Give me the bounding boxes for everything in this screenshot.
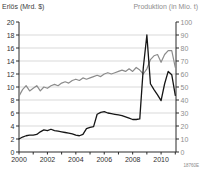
right-axis-tick-label: 80	[181, 45, 189, 52]
right-axis-tick-label: 60	[181, 71, 189, 78]
right-axis-tick-label: 70	[181, 58, 189, 65]
x-axis-tick-label: 2004	[68, 156, 84, 163]
left-axis-tick-label: 10	[7, 84, 15, 91]
x-axis-tick-label: 2002	[40, 156, 56, 163]
right-axis-tick-label: 30	[181, 110, 189, 117]
right-axis-tick-label: 40	[181, 97, 189, 104]
right-axis-tick-label: 0	[181, 149, 185, 156]
right-axis-tick-label: 50	[181, 84, 189, 91]
right-axis-tick-label: 100	[181, 19, 193, 26]
right-axis-tick-label: 10	[181, 136, 189, 143]
right-axis-tick-label: 90	[181, 32, 189, 39]
x-axis-tick-label: 2006	[96, 156, 112, 163]
line-chart-canvas: 0246810121416182001020304050607080901002…	[0, 0, 201, 174]
left-axis-tick-label: 18	[7, 32, 15, 39]
left-axis-tick-label: 12	[7, 71, 15, 78]
x-axis-tick-label: 2000	[11, 156, 27, 163]
left-axis-tick-label: 2	[11, 136, 15, 143]
left-axis-tick-label: 0	[11, 149, 15, 156]
left-axis-tick-label: 6	[11, 110, 15, 117]
chart-page: Erlös (Mrd. $) Produktion (in Mio. t) 02…	[0, 0, 201, 174]
left-axis-tick-label: 16	[7, 45, 15, 52]
series-line-produktion	[19, 51, 175, 97]
right-axis-tick-label: 20	[181, 123, 189, 130]
x-axis-tick-label: 2010	[153, 156, 169, 163]
left-axis-tick-label: 8	[11, 97, 15, 104]
left-axis-tick-label: 4	[11, 123, 15, 130]
left-axis-tick-label: 14	[7, 58, 15, 65]
left-axis-tick-label: 20	[7, 19, 15, 26]
x-axis-tick-label: 2008	[125, 156, 141, 163]
source-code-label: 18760E	[183, 163, 199, 168]
